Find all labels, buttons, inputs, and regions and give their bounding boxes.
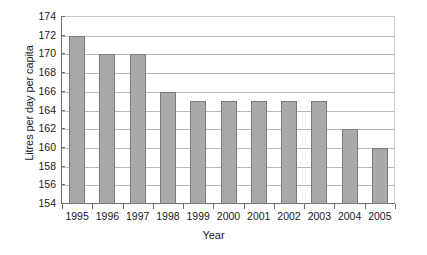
x-axis-tick-mark	[334, 204, 335, 209]
y-axis-tick-label: 166	[26, 86, 56, 96]
x-axis-tick-mark	[213, 204, 214, 209]
y-axis-tick-label: 158	[26, 161, 56, 171]
bar	[281, 101, 297, 204]
x-axis-tick-mark	[244, 204, 245, 209]
bar	[69, 36, 85, 204]
x-axis-tick-mark	[304, 204, 305, 209]
x-axis-tick-mark	[183, 204, 184, 209]
bar-series	[62, 17, 395, 204]
bar	[311, 101, 327, 204]
y-axis-tick-label: 164	[26, 105, 56, 115]
x-axis-tick-mark	[123, 204, 124, 209]
x-axis-tick-mark	[62, 204, 63, 209]
y-axis-tick-label: 168	[26, 67, 56, 77]
y-axis-tick-label: 170	[26, 48, 56, 58]
bar	[372, 148, 388, 204]
y-axis-tick-label: 154	[26, 198, 56, 208]
y-axis-tick-label: 156	[26, 179, 56, 189]
x-axis-title: Year	[0, 229, 427, 241]
bar	[342, 129, 358, 204]
x-axis-tick-mark	[365, 204, 366, 209]
bar	[160, 92, 176, 204]
x-axis-tick-mark	[92, 204, 93, 209]
y-axis-tick-label: 162	[26, 123, 56, 133]
y-axis-tick-label: 160	[26, 142, 56, 152]
x-axis-tick-mark	[395, 204, 396, 209]
x-axis-tick-mark	[274, 204, 275, 209]
bar	[190, 101, 206, 204]
bar-chart: Litres per day per capita 17417217016816…	[0, 0, 427, 255]
y-axis-tick-label: 172	[26, 30, 56, 40]
bar	[221, 101, 237, 204]
x-axis-tick-mark	[153, 204, 154, 209]
bar	[130, 54, 146, 204]
y-axis-tick-label: 174	[26, 11, 56, 21]
bar	[99, 54, 115, 204]
bar	[251, 101, 267, 204]
x-axis-tick-label: 2005	[360, 210, 400, 222]
